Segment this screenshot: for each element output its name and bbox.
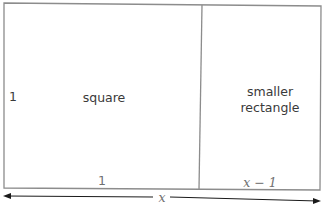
arrowhead-left-icon bbox=[3, 193, 11, 199]
smaller-rectangle-label-line2: rectangle bbox=[240, 100, 300, 116]
square-rectangle-divider bbox=[199, 5, 202, 189]
square-label: square bbox=[80, 90, 128, 106]
smaller-rectangle-label-line1: smaller bbox=[240, 84, 300, 100]
rectangle-bottom-label: x − 1 bbox=[240, 175, 280, 191]
width-arrow-right bbox=[170, 197, 318, 201]
width-arrow-left bbox=[6, 196, 153, 197]
total-width-label: x bbox=[156, 190, 168, 205]
arrowhead-right-icon bbox=[313, 198, 321, 204]
square-bottom-label: 1 bbox=[96, 173, 108, 189]
golden-rectangle-diagram: 1 square smaller rectangle 1 x − 1 x bbox=[0, 0, 325, 205]
left-side-label: 1 bbox=[9, 89, 17, 105]
